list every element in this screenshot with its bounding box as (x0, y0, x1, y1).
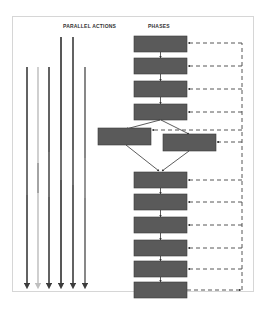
parallel-actions (26, 37, 86, 286)
phase-box (134, 172, 187, 188)
parallel-action-arrow (48, 67, 50, 286)
phase-box (134, 81, 187, 97)
phase-box (134, 217, 187, 233)
parallel-action-arrow (72, 37, 74, 286)
parallel-action-arrow (84, 67, 86, 286)
phase-box (163, 134, 216, 151)
phase-box (134, 261, 187, 277)
phases-header: PHASES (148, 23, 170, 29)
parallel-action-arrow (37, 67, 39, 286)
parallel-action-arrow (60, 37, 62, 286)
phase-box (134, 194, 187, 210)
parallel-actions-header: PARALLEL ACTIONS (63, 23, 117, 29)
process-diagram: PARALLEL ACTIONS PHASES (0, 0, 266, 312)
phase-box (134, 282, 187, 298)
phase-flow (98, 36, 216, 298)
phase-box (134, 58, 187, 74)
phase-box (98, 128, 151, 145)
phase-box (134, 36, 187, 52)
parallel-action-arrow (26, 67, 28, 286)
phase-box (134, 104, 187, 120)
phase-box (134, 240, 187, 256)
